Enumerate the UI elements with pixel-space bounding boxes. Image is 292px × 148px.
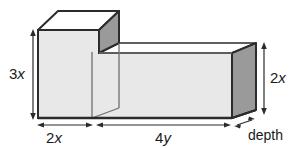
label-right-width: 4y [155,129,172,146]
solid-body [38,11,256,118]
low-block-side-face [232,43,256,118]
left-height-arrowhead-top [30,29,36,36]
label-right-height-coefficient: 2 [270,69,278,86]
dimension-right-height: 2x [261,42,286,115]
dimension-left-width: 2x [37,122,93,146]
dimension-left-height: 3x [9,29,36,120]
label-left-height: 3x [9,65,25,82]
label-left-width-coefficient: 2 [46,129,54,146]
low-block-top-face [99,43,256,53]
label-left-width: 2x [46,129,62,146]
right-width-arrowhead-left [96,122,103,127]
label-right-width-variable: y [162,129,172,146]
l-shaped-solid-diagram: 3x 2x 2x 4y [0,0,292,148]
figure-container: 3x 2x 2x 4y [0,0,292,148]
left-width-arrowhead-right [86,122,93,127]
dimension-depth: depth [234,116,283,143]
left-width-arrowhead-left [37,122,44,127]
left-height-arrowhead-bottom [30,113,36,120]
label-left-width-variable: x [53,129,62,146]
right-height-arrowhead-top [261,42,267,49]
label-depth: depth [248,127,283,143]
label-left-height-coefficient: 3 [9,65,17,82]
depth-arrow-line [237,120,252,125]
dimension-right-width: 4y [96,122,231,146]
right-height-arrowhead-bottom [261,108,267,115]
label-right-height: 2x [270,69,286,86]
label-left-height-variable: x [16,65,25,82]
right-width-arrowhead-right [224,122,231,127]
label-right-height-variable: x [277,69,286,86]
label-right-width-coefficient: 4 [155,129,163,146]
